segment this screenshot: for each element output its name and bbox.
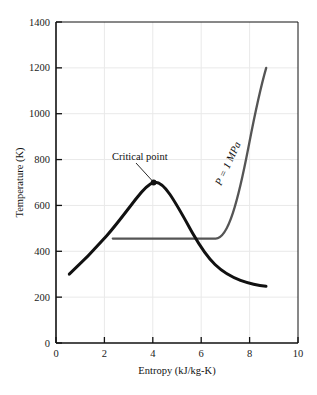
x-tick-label: 10 <box>293 348 304 359</box>
ts-diagram-figure: 0 200 400 600 800 1000 1200 1400 0 2 4 6… <box>0 0 317 395</box>
x-tick-labels: 0 2 4 6 8 10 <box>53 348 303 359</box>
y-axis-title: Temperature (K) <box>14 147 26 218</box>
critical-point-label: Critical point <box>112 151 168 162</box>
x-tick-label: 8 <box>247 348 252 359</box>
y-tick-label: 800 <box>34 154 50 165</box>
x-tick-label: 6 <box>199 348 204 359</box>
y-tick-label: 1200 <box>29 62 50 73</box>
y-tick-label: 400 <box>34 246 50 257</box>
x-tick-label: 4 <box>150 348 156 359</box>
y-tick-label: 200 <box>34 292 50 303</box>
x-axis-title: Entropy (kJ/kg-K) <box>138 365 216 377</box>
chart-canvas: 0 200 400 600 800 1000 1200 1400 0 2 4 6… <box>0 0 317 395</box>
plot-background <box>56 22 298 343</box>
x-tick-label: 0 <box>53 348 58 359</box>
y-tick-label: 1400 <box>29 17 50 28</box>
y-tick-label: 600 <box>34 200 50 211</box>
y-tick-label: 0 <box>45 338 50 349</box>
y-tick-labels: 0 200 400 600 800 1000 1200 1400 <box>29 17 50 349</box>
x-tick-label: 2 <box>102 348 107 359</box>
y-tick-label: 1000 <box>29 108 50 119</box>
